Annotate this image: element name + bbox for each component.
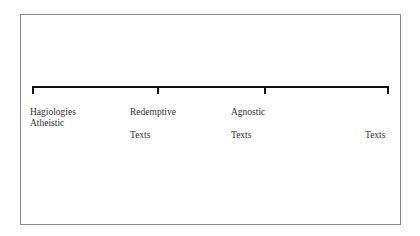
scale-tick-3 [264,86,266,94]
label-agnostic: Agnostic [231,107,265,118]
diagram-frame [20,14,401,225]
label-redemptive: Redemptive [130,107,176,118]
scale-axis-line [32,86,389,88]
label-redemptive-texts: Texts [130,130,150,141]
scale-tick-1 [32,86,34,94]
label-end-texts: Texts [365,130,385,141]
label-hagiologies: Hagiologies [30,107,76,118]
scale-tick-2 [157,86,159,94]
label-atheistic: Atheistic [30,118,64,129]
label-agnostic-texts: Texts [231,130,251,141]
scale-tick-4 [387,86,389,94]
